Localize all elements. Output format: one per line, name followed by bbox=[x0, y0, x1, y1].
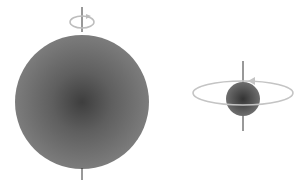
rotation-diagram bbox=[0, 0, 306, 186]
large-sphere-body bbox=[15, 35, 149, 169]
small-sphere-body bbox=[226, 82, 260, 116]
large-sphere bbox=[15, 7, 149, 180]
small-sphere bbox=[193, 61, 293, 131]
